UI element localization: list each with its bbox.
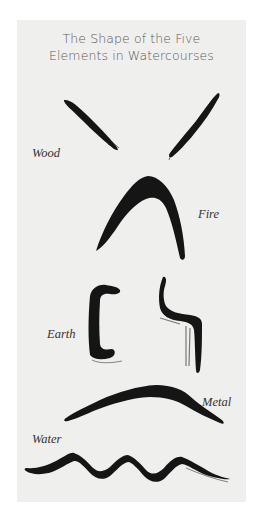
label-metal: Metal xyxy=(202,395,231,410)
wood-stroke-left-icon xyxy=(64,100,119,150)
label-wood: Wood xyxy=(32,146,60,161)
label-fire: Fire xyxy=(198,207,219,222)
fire-stroke-icon xyxy=(96,176,185,260)
label-earth: Earth xyxy=(47,327,75,342)
earth-stroke-right-icon xyxy=(159,277,202,373)
metal-stroke-icon xyxy=(64,385,223,424)
label-water: Water xyxy=(32,432,61,447)
wood-stroke-right-icon xyxy=(169,93,220,160)
water-stroke-icon xyxy=(25,453,230,482)
earth-stroke-left-icon xyxy=(89,285,123,363)
